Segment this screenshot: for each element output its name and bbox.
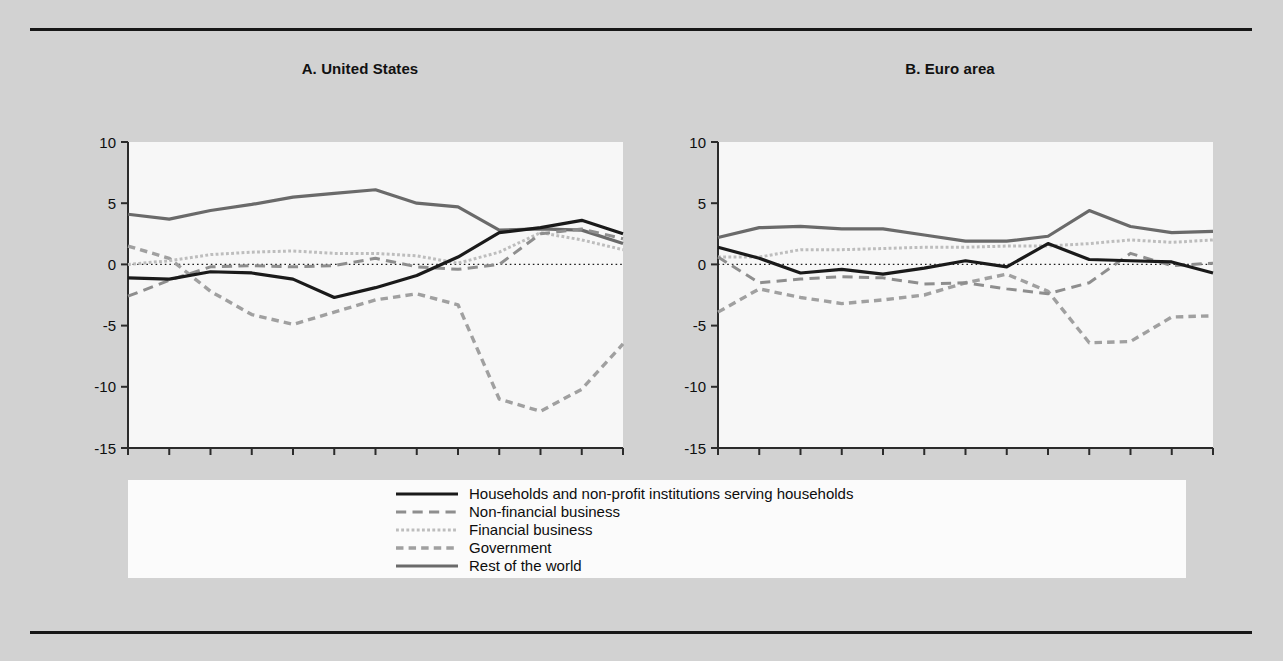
y-tick-label: -15 xyxy=(94,440,116,457)
y-tick-label: 0 xyxy=(698,256,706,273)
legend-item: Rest of the world xyxy=(396,557,853,575)
legend-item-label: Households and non-profit institutions s… xyxy=(469,485,853,503)
legend-line-swatch xyxy=(396,503,458,521)
legend: Households and non-profit institutions s… xyxy=(128,480,1186,578)
y-tick-label: -15 xyxy=(684,440,706,457)
panel-euro-area: B. Euro area 1050-5-10-15200020022004200… xyxy=(650,60,1250,458)
y-tick-label: -10 xyxy=(94,378,116,395)
top-rule xyxy=(30,28,1252,31)
panel-a-title: A. United States xyxy=(60,60,660,80)
legend-entries: Households and non-profit institutions s… xyxy=(396,485,853,575)
figure-container: A. United States 1050-5-10-1520002002200… xyxy=(0,0,1283,661)
y-tick-label: 0 xyxy=(108,256,116,273)
legend-item-label: Financial business xyxy=(469,521,592,539)
panel-b-title: B. Euro area xyxy=(650,60,1250,80)
legend-line-swatch xyxy=(396,557,458,575)
panel-a-svg: 1050-5-10-152000200220042006200820102012 xyxy=(60,88,660,458)
legend-line-swatch xyxy=(396,485,458,503)
legend-line-swatch xyxy=(396,539,458,557)
y-tick-label: -5 xyxy=(693,317,706,334)
y-tick-label: 10 xyxy=(689,134,706,151)
legend-item-label: Rest of the world xyxy=(469,557,582,575)
legend-item: Households and non-profit institutions s… xyxy=(396,485,853,503)
panel-b-svg: 1050-5-10-152000200220042006200820102012 xyxy=(650,88,1250,458)
legend-item-label: Government xyxy=(469,539,552,557)
y-tick-label: -5 xyxy=(103,317,116,334)
panel-united-states: A. United States 1050-5-10-1520002002200… xyxy=(60,60,660,458)
y-tick-label: 10 xyxy=(99,134,116,151)
legend-item: Financial business xyxy=(396,521,853,539)
panel-b-plot: 1050-5-10-152000200220042006200820102012 xyxy=(650,88,1250,458)
y-tick-label: -10 xyxy=(684,378,706,395)
y-tick-label: 5 xyxy=(698,195,706,212)
y-tick-label: 5 xyxy=(108,195,116,212)
legend-item: Government xyxy=(396,539,853,557)
bottom-rule xyxy=(30,631,1252,634)
legend-item-label: Non-financial business xyxy=(469,503,620,521)
legend-item: Non-financial business xyxy=(396,503,853,521)
plot-area xyxy=(128,142,623,448)
legend-line-swatch xyxy=(396,521,458,539)
panel-a-plot: 1050-5-10-152000200220042006200820102012 xyxy=(60,88,660,458)
